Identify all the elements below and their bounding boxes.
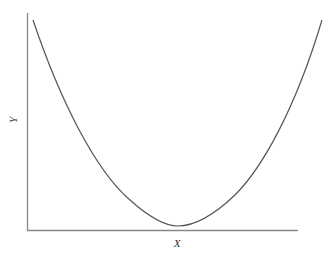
y-axis-label: Y bbox=[7, 115, 19, 123]
x-axis-label: X bbox=[173, 237, 182, 249]
curve-line bbox=[33, 20, 322, 226]
chart: X Y bbox=[0, 0, 328, 258]
